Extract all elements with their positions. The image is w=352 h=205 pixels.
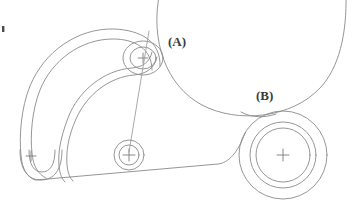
left-edge-tick-icon bbox=[2, 26, 4, 32]
technical-drawing-canvas: (A) (B) bbox=[0, 0, 352, 205]
callout-label-a: (A) bbox=[168, 34, 186, 49]
right-boss-center-crosshair-icon bbox=[277, 149, 289, 161]
large-reference-arc bbox=[157, 0, 346, 116]
lower-body-edge bbox=[36, 133, 245, 180]
callout-label-b: (B) bbox=[256, 88, 273, 103]
part-drawing-svg: (A) (B) bbox=[0, 0, 352, 205]
hook-third-edge bbox=[67, 57, 157, 181]
lower-eye-center-crosshair-icon bbox=[26, 151, 36, 161]
lower-eye-outer-arc bbox=[20, 150, 62, 180]
hook-inner-edge bbox=[59, 52, 152, 182]
hook-second-edge bbox=[31, 39, 152, 178]
centre-leader-line bbox=[129, 31, 149, 152]
upper-boss-center-crosshair-icon bbox=[138, 53, 148, 63]
